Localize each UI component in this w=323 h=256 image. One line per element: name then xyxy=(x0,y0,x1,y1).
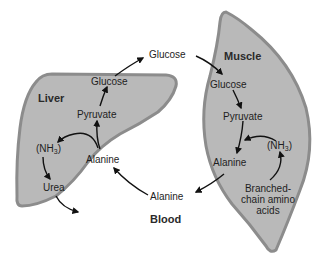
urea-label: Urea xyxy=(43,182,65,193)
muscle-nh3-label: (NH3) xyxy=(267,140,292,151)
blood-glucose-label: Glucose xyxy=(149,49,186,60)
liver-label: Liver xyxy=(38,93,64,104)
glucose-alanine-cycle-diagram: Liver Muscle Blood Glucose Glucose Pyruv… xyxy=(0,0,323,256)
muscle-nh3-text: (NH xyxy=(267,140,285,151)
muscle-alanine-label: Alanine xyxy=(213,157,246,168)
bcaa-label: Branched- chain amino acids xyxy=(218,183,318,216)
muscle-label: Muscle xyxy=(224,51,261,62)
liver-nh3-close: ) xyxy=(58,143,61,154)
muscle-nh3-close: ) xyxy=(289,140,292,151)
liver-pyruvate-label: Pyruvate xyxy=(77,109,116,120)
liver-glucose-label: Glucose xyxy=(91,76,128,87)
muscle-pyruvate-label: Pyruvate xyxy=(223,111,262,122)
liver-nh3-label: (NH3) xyxy=(36,143,61,154)
blood-alanine-label: Alanine xyxy=(150,191,183,202)
liver-nh3-text: (NH xyxy=(36,143,54,154)
arrow-blood-alanine-to-liver-alanine xyxy=(114,168,148,195)
muscle-glucose-label: Glucose xyxy=(210,79,247,90)
blood-label: Blood xyxy=(150,214,181,225)
liver-alanine-label: Alanine xyxy=(86,154,119,165)
arrow-urea-out xyxy=(56,196,78,212)
